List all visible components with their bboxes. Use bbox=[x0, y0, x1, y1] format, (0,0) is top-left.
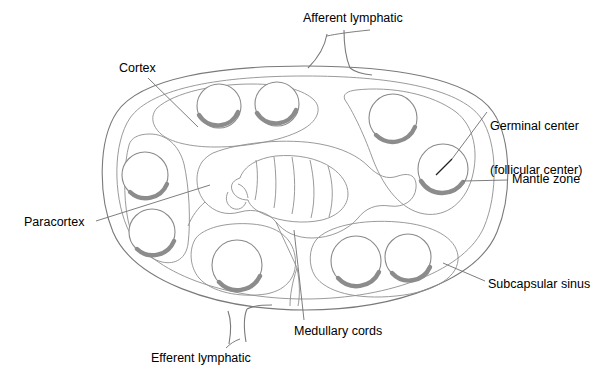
medullary-cords bbox=[226, 156, 348, 223]
label-mantle-zone: Mantle zone bbox=[512, 172, 580, 186]
label-germinal-center-line1: Germinal center bbox=[490, 119, 582, 134]
label-efferent-lymphatic: Efferent lymphatic bbox=[151, 351, 251, 365]
follicle-bottom-mid bbox=[331, 236, 381, 286]
label-paracortex: Paracortex bbox=[24, 215, 84, 229]
follicle-top-left-1 bbox=[197, 84, 241, 128]
leader-line-efferent-lymphatic bbox=[226, 339, 240, 348]
leader-line-cortex bbox=[148, 78, 198, 127]
efferent-lymphatic-vessel bbox=[228, 305, 272, 344]
label-subcapsular-sinus: Subcapsular sinus bbox=[488, 277, 590, 291]
leader-line-afferent-lymphatic bbox=[327, 30, 370, 36]
label-germinal-center: Germinal center (follicular center) bbox=[490, 90, 582, 206]
follicle-top-left-2 bbox=[255, 82, 299, 126]
lymph-node-diagram-figure: .ln { fill: none; stroke: #7a7a7a; strok… bbox=[0, 0, 611, 372]
follicle-left-lower bbox=[129, 209, 175, 255]
follicle-right-lower bbox=[418, 144, 468, 194]
label-medullary-cords: Medullary cords bbox=[294, 324, 382, 338]
leader-line-subcapsular-sinus bbox=[443, 263, 485, 281]
follicle-left-upper bbox=[122, 152, 168, 198]
label-afferent-lymphatic: Afferent lymphatic bbox=[303, 11, 403, 25]
follicle-bottom-right bbox=[385, 234, 431, 281]
label-cortex: Cortex bbox=[119, 61, 156, 75]
follicle-right-upper bbox=[369, 94, 417, 142]
leader-line-medullary-cords bbox=[294, 230, 304, 320]
follicle-bottom-left bbox=[212, 240, 262, 290]
